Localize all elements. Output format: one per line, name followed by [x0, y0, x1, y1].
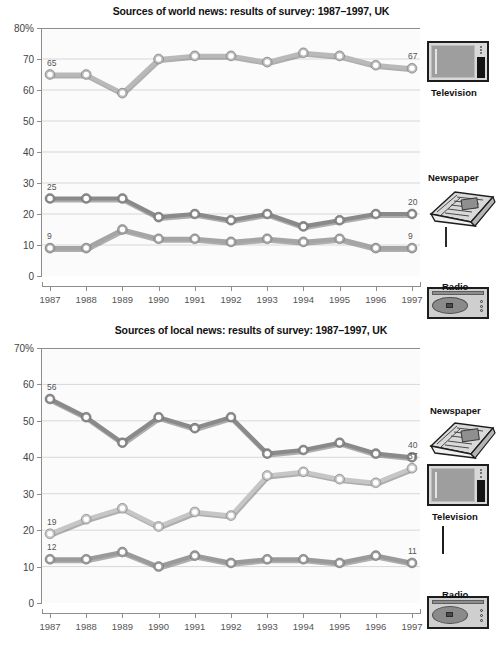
x-axis-endcap [42, 282, 43, 287]
radio-leader-line [445, 227, 447, 247]
x-axis-tick [195, 286, 196, 291]
chart-world-news-legend: Television Newspaper [0, 0, 70, 74]
y-axis-label: 20 [0, 209, 34, 220]
tv-controls [477, 468, 485, 502]
x-axis-tick [303, 613, 304, 618]
x-axis-label: 1991 [184, 294, 205, 305]
legend-label-newspaper: Newspaper [428, 172, 479, 183]
y-axis-tick [37, 121, 42, 122]
point-label-end: 20 [408, 197, 417, 207]
y-axis-label: 10 [0, 561, 34, 572]
radio-knobs [478, 607, 484, 624]
y-axis-label: 40 [0, 452, 34, 463]
y-axis-label: 0 [0, 271, 34, 282]
chart-local-news-svg [42, 348, 420, 603]
y-axis-tick [37, 457, 42, 458]
radio-knob [480, 614, 483, 617]
y-axis-tick [37, 245, 42, 246]
legend-label-newspaper: Newspaper [430, 405, 481, 416]
radio-knob [480, 305, 483, 308]
x-axis-label: 1994 [293, 294, 314, 305]
x-axis-tick [412, 613, 413, 618]
y-axis-tick [37, 530, 42, 531]
x-axis-tick [412, 286, 413, 291]
newspaper-icon [427, 186, 497, 228]
x-axis-label: 1994 [293, 621, 314, 632]
x-axis-label: 1996 [365, 294, 386, 305]
x-axis-label: 1988 [76, 621, 97, 632]
radio-speaker [432, 297, 468, 314]
y-axis-label: 50 [0, 415, 34, 426]
chart-world-news-title: Sources of world news: results of survey… [0, 5, 502, 17]
newspaper-icon [427, 417, 497, 461]
x-axis-endcap [420, 609, 421, 614]
x-axis-tick [267, 613, 268, 618]
television-icon [427, 464, 489, 506]
point-label-start: 12 [47, 542, 56, 552]
x-axis-label: 1995 [329, 294, 350, 305]
y-axis-label: 60 [0, 85, 34, 96]
radio-knobs [478, 298, 484, 314]
x-axis-tick [340, 286, 341, 291]
y-axis-tick [37, 152, 42, 153]
radio-icon [427, 596, 489, 629]
tv-speaker [477, 480, 485, 502]
point-label-end: 37 [408, 451, 417, 461]
point-label-end: 11 [408, 546, 417, 556]
x-axis-tick [231, 613, 232, 618]
chart-local-news-title: Sources of local news: results of survey… [0, 324, 502, 336]
y-axis-label: 30 [0, 178, 34, 189]
y-axis-tick [37, 183, 42, 184]
x-axis-label: 1990 [148, 621, 169, 632]
survey-charts-page: Sources of world news: results of survey… [0, 0, 502, 646]
y-axis-label: 20 [0, 525, 34, 536]
x-axis-tick [50, 613, 51, 618]
x-axis-tick [231, 286, 232, 291]
tv-knob [480, 469, 482, 471]
television-icon [427, 41, 489, 82]
x-axis-tick [122, 613, 123, 618]
point-label-end: 67 [408, 51, 417, 61]
chart-world-news-plot [42, 28, 420, 276]
radio-display [432, 600, 484, 604]
chart-world-news: Sources of world news: results of survey… [0, 0, 502, 318]
x-axis-label: 1993 [257, 294, 278, 305]
x-axis-label: 1989 [112, 294, 133, 305]
x-axis-label: 1995 [329, 621, 350, 632]
x-axis-label: 1992 [220, 621, 241, 632]
y-axis-tick [37, 603, 42, 604]
x-axis-label: 1991 [184, 621, 205, 632]
y-axis-label: 50 [0, 116, 34, 127]
x-axis-tick [122, 286, 123, 291]
y-axis-label: 30 [0, 488, 34, 499]
point-label-start: 9 [47, 231, 52, 241]
tv-knobs [477, 45, 485, 56]
tv-speaker [477, 57, 485, 78]
y-axis-tick [37, 567, 42, 568]
tv-screen [431, 45, 475, 78]
x-axis-endcap [42, 609, 43, 614]
point-label-end: 40 [408, 440, 417, 450]
x-axis-tick [376, 613, 377, 618]
x-axis-tick [86, 286, 87, 291]
x-axis-tick [86, 613, 87, 618]
legend-label-television: Television [431, 87, 477, 98]
tv-knobs [477, 468, 485, 479]
x-axis-tick [50, 286, 51, 291]
x-axis-label: 1996 [365, 621, 386, 632]
x-axis-tick [376, 286, 377, 291]
radio-knob [480, 609, 483, 612]
radio-antenna [442, 526, 444, 554]
chart-world-news-svg [42, 28, 420, 276]
chart-local-news: Sources of local news: results of survey… [0, 320, 502, 646]
y-axis-label: 40 [0, 147, 34, 158]
x-axis-label: 1990 [148, 294, 169, 305]
x-axis-tick [267, 286, 268, 291]
tv-knob [480, 472, 482, 474]
x-axis-tick [159, 286, 160, 291]
radio-knob [480, 300, 483, 303]
x-axis-tick [159, 613, 160, 618]
y-axis-label: 10 [0, 240, 34, 251]
y-axis-tick [37, 214, 42, 215]
legend-label-television: Television [432, 511, 478, 522]
